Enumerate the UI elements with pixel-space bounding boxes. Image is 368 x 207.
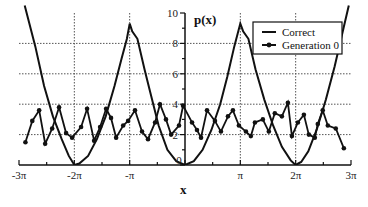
data-point	[302, 113, 307, 118]
data-point	[313, 135, 318, 140]
data-point	[342, 146, 347, 151]
data-point	[219, 129, 224, 134]
data-point	[140, 129, 145, 134]
data-point	[109, 116, 114, 121]
y-axis-title: p(x)	[194, 12, 216, 27]
data-point	[290, 134, 295, 139]
data-point	[244, 129, 249, 134]
data-point	[153, 120, 158, 125]
y-axis-ticks: 246810	[167, 7, 185, 165]
x-axis-title: x	[180, 182, 187, 197]
data-point	[50, 126, 55, 131]
x-tick-label: -π	[125, 169, 135, 181]
data-point	[286, 100, 291, 105]
x-tick-label: 0	[176, 154, 182, 166]
data-point	[267, 129, 272, 134]
legend-marker-generation-0-icon	[267, 43, 272, 48]
data-point	[64, 131, 69, 136]
data-point	[126, 119, 131, 124]
data-point	[195, 128, 200, 133]
data-point	[92, 138, 97, 143]
y-tick-label: 4	[173, 98, 179, 110]
data-point	[114, 135, 119, 140]
data-point	[280, 114, 285, 119]
data-point	[104, 106, 109, 111]
line-chart: -3π-2π-π0π2π3π 246810 p(x) x Correct Gen…	[0, 0, 368, 207]
data-point	[70, 135, 75, 140]
data-point	[249, 134, 254, 139]
data-point	[213, 119, 218, 124]
data-point	[79, 125, 84, 130]
data-point	[333, 126, 338, 131]
data-point	[273, 111, 278, 116]
data-point	[296, 120, 301, 125]
data-point	[43, 141, 48, 146]
data-point	[226, 114, 231, 119]
legend-label-generation-0: Generation 0	[282, 39, 340, 51]
data-point	[231, 108, 236, 113]
data-point	[261, 117, 266, 122]
data-point	[320, 108, 325, 113]
data-point	[158, 102, 163, 107]
y-tick-label: 6	[173, 68, 179, 80]
data-point	[37, 108, 42, 113]
data-point	[98, 125, 103, 130]
data-point	[237, 123, 242, 128]
data-point	[316, 122, 321, 127]
data-point	[133, 108, 138, 113]
legend-label-correct: Correct	[282, 26, 315, 38]
data-point	[146, 137, 151, 142]
data-point	[190, 120, 195, 125]
data-point	[164, 117, 169, 122]
data-point	[326, 123, 331, 128]
data-point	[85, 106, 90, 111]
data-point	[253, 120, 258, 125]
data-point	[307, 132, 312, 137]
x-tick-label: -3π	[12, 169, 27, 181]
x-tick-label: 2π	[290, 169, 302, 181]
x-tick-label: π	[238, 169, 244, 181]
x-tick-label: 3π	[345, 169, 357, 181]
data-point	[205, 108, 210, 113]
data-point	[23, 140, 28, 145]
data-point	[30, 119, 35, 124]
data-point	[177, 123, 182, 128]
y-tick-label: 2	[173, 129, 179, 141]
x-tick-label: -2π	[67, 169, 82, 181]
data-point	[121, 123, 126, 128]
data-point	[57, 105, 62, 110]
y-tick-label: 10	[167, 7, 179, 19]
legend: Correct Generation 0	[253, 22, 342, 54]
data-point	[199, 135, 204, 140]
y-tick-label: 8	[173, 37, 179, 49]
